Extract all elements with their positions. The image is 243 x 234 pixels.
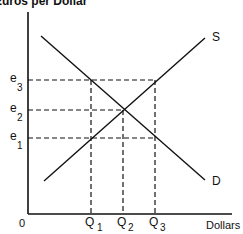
svg-text:2: 2 xyxy=(17,112,23,123)
x-axis-title: Dollars xyxy=(206,219,241,231)
supply-demand-diagram: Euros per Dollar S D e 3 e 2 e 1 0 Q 1 Q… xyxy=(0,0,243,234)
demand-label: D xyxy=(212,174,221,188)
svg-text:3: 3 xyxy=(17,82,23,93)
y-axis-title: Euros per Dollar xyxy=(0,0,88,8)
origin-label: 0 xyxy=(19,217,25,229)
svg-text:e: e xyxy=(10,71,17,85)
svg-text:2: 2 xyxy=(128,222,134,233)
svg-text:Q: Q xyxy=(85,215,94,229)
y-tick-e3: e 3 xyxy=(10,71,23,93)
svg-text:3: 3 xyxy=(160,222,166,233)
svg-text:e: e xyxy=(10,129,17,143)
svg-text:Q: Q xyxy=(149,215,158,229)
svg-text:e: e xyxy=(10,101,17,115)
y-tick-e1: e 1 xyxy=(10,129,23,151)
x-tick-q2: Q 2 xyxy=(117,215,134,233)
svg-text:Q: Q xyxy=(117,215,126,229)
svg-text:1: 1 xyxy=(97,222,103,233)
supply-label: S xyxy=(212,30,220,44)
svg-text:1: 1 xyxy=(17,140,23,151)
x-tick-q3: Q 3 xyxy=(149,215,166,233)
y-tick-e2: e 2 xyxy=(10,101,23,123)
x-tick-q1: Q 1 xyxy=(85,215,103,233)
